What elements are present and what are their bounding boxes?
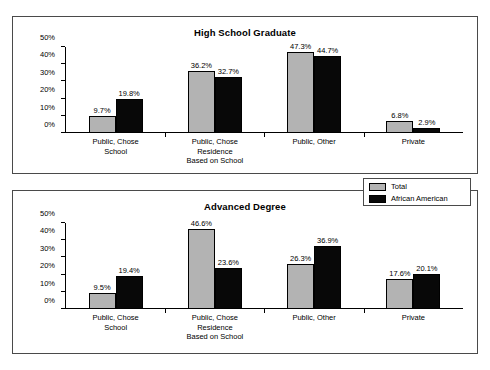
bar-total: 17.6% (386, 279, 413, 309)
bar-group: 9.5%19.4%Public, ChoseSchool (66, 223, 165, 309)
bar-total: 9.7% (89, 116, 116, 133)
y-axis-tick: 50% (61, 222, 65, 223)
y-axis-tick: 30% (61, 256, 65, 257)
legend-swatch-african-american (369, 195, 386, 203)
bars: 9.5%19.4% (66, 223, 165, 309)
bars: 36.2%32.7% (165, 47, 264, 133)
bar-value-label: 9.5% (94, 283, 111, 292)
bar-value-label: 46.6% (191, 219, 212, 228)
bar-value-label: 36.9% (317, 236, 338, 245)
bar-total: 9.5% (89, 293, 116, 309)
chart-title: High School Graduate (13, 27, 477, 38)
y-axis-tick: 50% (61, 46, 65, 47)
y-axis-tick-label: 30% (40, 67, 55, 76)
bar-value-label: 17.6% (389, 269, 410, 278)
bar-total: 46.6% (188, 229, 215, 309)
bar-group: 9.7%19.8%Public, ChoseSchool (66, 47, 165, 133)
bar-group: 47.3%44.7%Public, Other (265, 47, 364, 133)
bar-total: 26.3% (287, 264, 314, 309)
bar-value-label: 20.1% (416, 264, 437, 273)
legend-item-total: Total (369, 181, 470, 192)
plot-area: 50%40%30%20%10%0% 9.5%19.4%Public, Chose… (65, 223, 463, 309)
bar-value-label: 2.9% (418, 118, 435, 127)
bar-value-label: 44.7% (317, 46, 338, 55)
bar-total: 47.3% (287, 52, 314, 133)
legend-item-african-american: African American (369, 193, 470, 204)
bars: 9.7%19.8% (66, 47, 165, 133)
bar-groups: 9.5%19.4%Public, ChoseSchool46.6%23.6%Pu… (66, 223, 463, 309)
bar-group: 17.6%20.1%Private (364, 223, 463, 309)
bar-african-american: 2.9% (413, 128, 440, 133)
bar-african-american: 44.7% (314, 56, 341, 133)
y-axis-tick: 20% (61, 98, 65, 99)
y-axis-tick-label: 50% (40, 209, 55, 218)
bar-value-label: 32.7% (218, 67, 239, 76)
y-axis-tick-label: 0% (44, 296, 55, 305)
bar-african-american: 23.6% (215, 268, 242, 309)
bars: 47.3%44.7% (265, 47, 364, 133)
bar-african-american: 32.7% (215, 77, 242, 133)
legend-swatch-total (369, 183, 386, 191)
y-axis-tick-label: 20% (40, 261, 55, 270)
bar-value-label: 6.8% (391, 111, 408, 120)
y-axis-tick-label: 50% (40, 33, 55, 42)
bar-total: 6.8% (386, 121, 413, 133)
y-axis-tick-label: 40% (40, 50, 55, 59)
bars: 26.3%36.9% (265, 223, 364, 309)
bar-groups: 9.7%19.8%Public, ChoseSchool36.2%32.7%Pu… (66, 47, 463, 133)
bar-value-label: 36.2% (191, 61, 212, 70)
bars: 17.6%20.1% (364, 223, 463, 309)
bar-african-american: 20.1% (413, 274, 440, 309)
bar-african-american: 19.8% (116, 99, 143, 133)
bar-group: 36.2%32.7%Public, ChoseResidenceBased on… (165, 47, 264, 133)
y-axis-tick: 40% (61, 63, 65, 64)
chart-panel-high-school-graduate: High School Graduate 50%40%30%20%10%0% 9… (12, 16, 478, 174)
y-axis-tick-label: 10% (40, 102, 55, 111)
y-axis-tick: 30% (61, 80, 65, 81)
bar-african-american: 36.9% (314, 246, 341, 309)
bar-group: 26.3%36.9%Public, Other (265, 223, 364, 309)
y-axis-tick-label: 0% (44, 120, 55, 129)
bar-total: 36.2% (188, 71, 215, 133)
y-axis-tick-label: 30% (40, 243, 55, 252)
y-axis-tick: 10% (61, 291, 65, 292)
y-axis-tick: 20% (61, 274, 65, 275)
bar-african-american: 19.4% (116, 276, 143, 309)
y-axis-tick: 10% (61, 115, 65, 116)
y-axis-tick: 40% (61, 239, 65, 240)
x-axis-category-label: Private (350, 313, 477, 323)
legend-label-total: Total (391, 182, 407, 191)
bar-group: 6.8%2.9%Private (364, 47, 463, 133)
y-axis-tick-label: 20% (40, 85, 55, 94)
y-axis-tick-label: 10% (40, 278, 55, 287)
chart-legend: Total African American (363, 178, 471, 206)
chart-panel-advanced-degree: Advanced Degree 50%40%30%20%10%0% 9.5%19… (12, 190, 478, 354)
plot-area: 50%40%30%20%10%0% 9.7%19.8%Public, Chose… (65, 47, 463, 133)
bar-value-label: 19.8% (118, 89, 139, 98)
bar-value-label: 23.6% (218, 258, 239, 267)
bar-value-label: 26.3% (290, 254, 311, 263)
bar-value-label: 19.4% (118, 266, 139, 275)
x-axis-category-label: Private (350, 137, 477, 147)
bars: 46.6%23.6% (165, 223, 264, 309)
bars: 6.8%2.9% (364, 47, 463, 133)
bar-group: 46.6%23.6%Public, ChoseResidenceBased on… (165, 223, 264, 309)
legend-label-african-american: African American (391, 194, 448, 203)
y-axis-tick-label: 40% (40, 226, 55, 235)
bar-value-label: 47.3% (290, 42, 311, 51)
bar-value-label: 9.7% (94, 106, 111, 115)
